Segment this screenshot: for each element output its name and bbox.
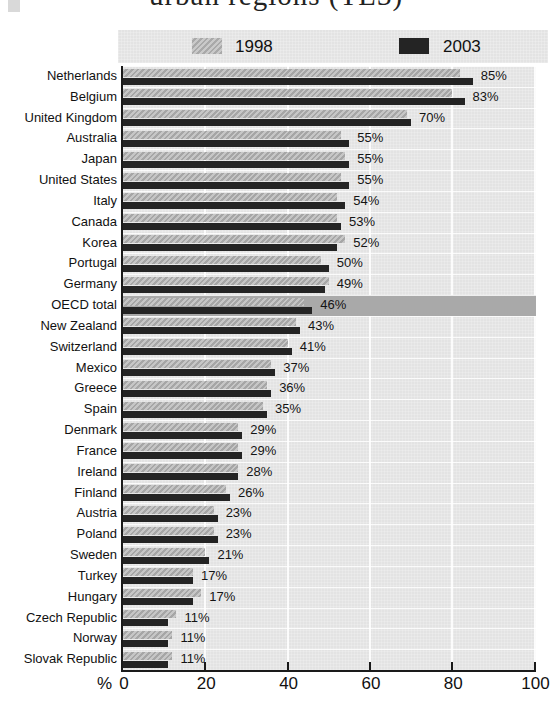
bar-row: 55% [123, 170, 536, 191]
bar-2003 [123, 411, 267, 418]
bar-1998 [123, 318, 296, 326]
bar-1998 [123, 214, 337, 222]
category-labels: NetherlandsBelgiumUnited KingdomAustrali… [0, 66, 117, 670]
bar-2003 [123, 182, 349, 189]
legend-label-1998: 1998 [235, 30, 273, 63]
bar-2003 [123, 161, 349, 168]
bar-1998 [123, 131, 341, 139]
bar-1998 [123, 235, 345, 243]
bar-2003 [123, 244, 337, 251]
category-label: Canada [0, 212, 117, 233]
category-label: Italy [0, 191, 117, 212]
row-separator [123, 337, 536, 338]
bar-1998 [123, 339, 288, 347]
bar-2003 [123, 265, 329, 272]
bar-row: 50% [123, 253, 536, 274]
bar-1998 [123, 423, 238, 431]
bar-row: 85% [123, 66, 536, 87]
bar-value-label: 17% [201, 566, 227, 587]
category-label: Netherlands [0, 66, 117, 87]
category-label: Japan [0, 149, 117, 170]
row-separator [123, 462, 536, 463]
bar-row: 21% [123, 545, 536, 566]
bar-1998 [123, 527, 214, 535]
x-tick-label: 40 [264, 674, 314, 694]
bar-value-label: 26% [238, 483, 264, 504]
category-label: Germany [0, 274, 117, 295]
legend: 1998 2003 [118, 30, 548, 63]
category-label: Poland [0, 524, 117, 545]
category-label: Australia [0, 128, 117, 149]
bar-value-label: 55% [357, 128, 383, 149]
row-separator [123, 566, 536, 567]
bar-1998 [123, 193, 337, 201]
plot-area: 85%83%70%55%55%55%54%53%52%50%49%46%43%4… [121, 66, 536, 672]
category-label: Turkey [0, 566, 117, 587]
bar-1998 [123, 69, 460, 77]
bar-value-label: 29% [250, 441, 276, 462]
category-label: Switzerland [0, 337, 117, 358]
bar-row: 36% [123, 378, 536, 399]
bar-2003 [123, 286, 325, 293]
bar-row: 49% [123, 274, 536, 295]
category-label: Norway [0, 628, 117, 649]
bar-row: 35% [123, 399, 536, 420]
bar-row: 37% [123, 358, 536, 379]
bar-row: 55% [123, 128, 536, 149]
bar-row: 46% [123, 295, 536, 316]
row-separator [123, 128, 536, 129]
bar-row: 29% [123, 420, 536, 441]
bar-2003 [123, 577, 193, 584]
bar-value-label: 35% [275, 399, 301, 420]
bar-2003 [123, 598, 193, 605]
legend-label-2003: 2003 [443, 30, 481, 63]
row-separator [123, 378, 536, 379]
bar-2003 [123, 307, 312, 314]
axis-tick [534, 662, 536, 670]
category-label: Slovak Republic [0, 649, 117, 670]
bar-row: 23% [123, 524, 536, 545]
bar-1998 [123, 402, 263, 410]
axis-tick [369, 662, 371, 670]
bar-row: 43% [123, 316, 536, 337]
bar-value-label: 29% [250, 420, 276, 441]
bar-1998 [123, 89, 452, 97]
category-label: Spain [0, 399, 117, 420]
row-separator [123, 545, 536, 546]
bar-row: 23% [123, 503, 536, 524]
bar-1998 [123, 485, 226, 493]
bar-1998 [123, 589, 201, 597]
bar-1998 [123, 256, 321, 264]
legend-swatch-2003 [399, 38, 429, 54]
bar-row: 11% [123, 628, 536, 649]
bar-value-label: 54% [353, 191, 379, 212]
bar-value-label: 11% [180, 628, 205, 649]
bar-value-label: 52% [353, 233, 379, 254]
bar-value-label: 43% [308, 316, 334, 337]
bar-value-label: 37% [283, 358, 309, 379]
bar-2003 [123, 202, 345, 209]
axis-tick [287, 662, 289, 670]
bar-value-label: 11% [180, 649, 205, 670]
bar-2003 [123, 78, 473, 85]
bar-value-label: 53% [349, 212, 375, 233]
bar-2003 [123, 473, 238, 480]
bar-2003 [123, 452, 242, 459]
chart-page: { "title": "urban regions (TL3)", "legen… [0, 0, 552, 702]
bar-value-label: 23% [226, 524, 252, 545]
row-separator [123, 191, 536, 192]
bar-row: 11% [123, 649, 536, 670]
category-label: Ireland [0, 462, 117, 483]
bar-2003 [123, 515, 218, 522]
bar-2003 [123, 140, 349, 147]
bar-2003 [123, 348, 292, 355]
category-label: United States [0, 170, 117, 191]
category-label: Finland [0, 483, 117, 504]
bar-value-label: 55% [357, 149, 383, 170]
x-tick-label: 80 [428, 674, 478, 694]
bar-row: 17% [123, 587, 536, 608]
bar-value-label: 21% [217, 545, 243, 566]
bar-value-label: 11% [184, 608, 209, 629]
bar-row: 26% [123, 483, 536, 504]
row-separator [123, 149, 536, 150]
